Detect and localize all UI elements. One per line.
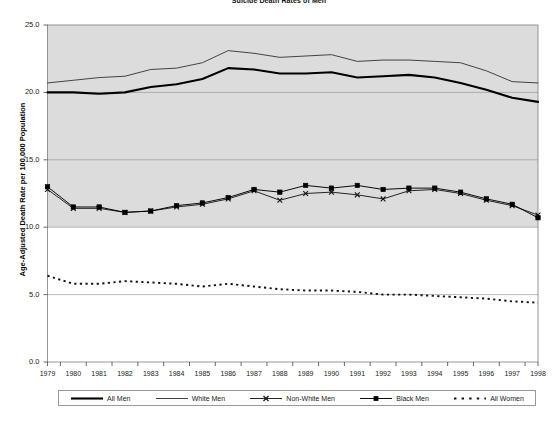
series-marker-black-men (149, 209, 153, 213)
series-marker-black-men (433, 186, 437, 190)
legend-item-all-women[interactable]: All Women (453, 394, 524, 403)
x-marker-swatch (249, 394, 283, 403)
solid-thick-swatch (70, 394, 104, 403)
legend-label: Black Men (396, 395, 429, 402)
solid-thin-swatch (155, 394, 189, 403)
legend-label: White Men (192, 395, 225, 402)
legend-label: Non-White Men (286, 395, 335, 402)
legend: All MenWhite MenNon-White MenBlack MenAl… (58, 390, 536, 406)
legend-item-black-men[interactable]: Black Men (359, 394, 429, 403)
series-marker-black-men (407, 186, 411, 190)
series-marker-black-men (381, 187, 385, 191)
series-marker-black-men (329, 186, 333, 190)
legend-item-white-men[interactable]: White Men (155, 394, 225, 403)
series-marker-black-men (484, 197, 488, 201)
series-marker-black-men (200, 201, 204, 205)
legend-label: All Women (490, 395, 524, 402)
series-marker-black-men (252, 187, 256, 191)
series-marker-black-men (536, 216, 540, 220)
series-marker-black-men (97, 205, 101, 209)
series-marker-black-men (458, 190, 462, 194)
series-marker-black-men (226, 195, 230, 199)
series-marker-black-men (45, 185, 49, 189)
series-marker-black-men (303, 183, 307, 187)
chart-container: Suicide Death Rates of Men Age-Adjusted … (0, 0, 558, 423)
legend-label: All Men (107, 395, 130, 402)
series-marker-black-men (71, 205, 75, 209)
series-marker-black-men (278, 190, 282, 194)
series-marker-black-men (510, 202, 514, 206)
series-marker-black-men (174, 203, 178, 207)
plot-area (0, 0, 558, 423)
series-marker-black-men (355, 183, 359, 187)
series-marker-black-men (123, 210, 127, 214)
dotted-swatch (453, 394, 487, 403)
legend-item-non-white-men[interactable]: Non-White Men (249, 394, 335, 403)
legend-item-all-men[interactable]: All Men (70, 394, 130, 403)
square-marker-swatch (359, 394, 393, 403)
